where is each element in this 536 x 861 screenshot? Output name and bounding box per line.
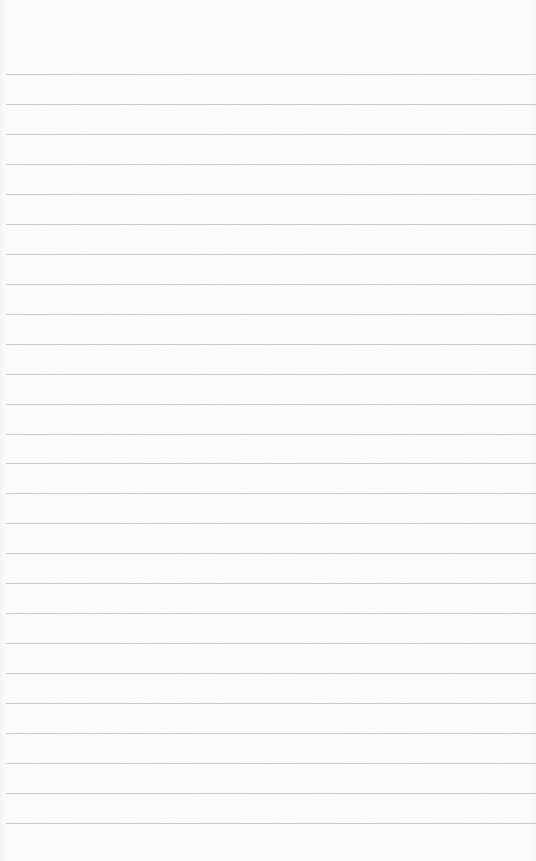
ruled-line — [6, 374, 536, 375]
ruled-line — [6, 404, 536, 405]
ruled-line — [6, 493, 536, 494]
ruled-line — [6, 733, 536, 734]
ruled-line — [6, 344, 536, 345]
ruled-line — [6, 434, 536, 435]
ruled-line — [6, 763, 536, 764]
ruled-line — [6, 284, 536, 285]
ruled-line — [6, 643, 536, 644]
ruled-line — [6, 613, 536, 614]
ruled-line — [6, 463, 536, 464]
ruled-line — [6, 314, 536, 315]
ruled-line — [6, 553, 536, 554]
ruled-line — [6, 134, 536, 135]
ruled-line — [6, 793, 536, 794]
ruled-line — [6, 224, 536, 225]
ruled-line — [6, 583, 536, 584]
ruled-line — [6, 523, 536, 524]
ruled-line — [6, 194, 536, 195]
ruled-line — [6, 104, 536, 105]
ruled-line — [6, 823, 536, 824]
lined-paper-sheet — [0, 0, 536, 861]
ruled-line — [6, 74, 536, 75]
ruled-line — [6, 703, 536, 704]
ruled-line — [6, 254, 536, 255]
ruled-line — [6, 673, 536, 674]
ruled-line — [6, 164, 536, 165]
